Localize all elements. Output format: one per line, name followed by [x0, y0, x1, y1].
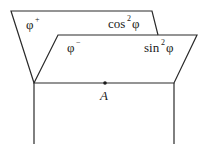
point-a-marker [103, 81, 107, 85]
diagram-canvas: A φ + cos 2 φ φ − sin 2 φ [0, 0, 207, 153]
front-plane-weight-base: sin [144, 40, 160, 55]
back-plane-weight-tail: φ [132, 16, 140, 31]
back-plane-weight-base: cos [108, 16, 125, 31]
back-plane-state-label: φ [26, 17, 34, 32]
back-plane-state-sup: + [35, 15, 40, 24]
front-plane-state-label: φ [67, 40, 75, 55]
front-plane-weight-sup: 2 [161, 38, 165, 47]
front-plane-state-sup: − [76, 38, 81, 47]
back-plane-weight-sup: 2 [127, 14, 131, 23]
point-a-label: A [99, 88, 108, 103]
front-plane-weight-tail: φ [166, 40, 174, 55]
